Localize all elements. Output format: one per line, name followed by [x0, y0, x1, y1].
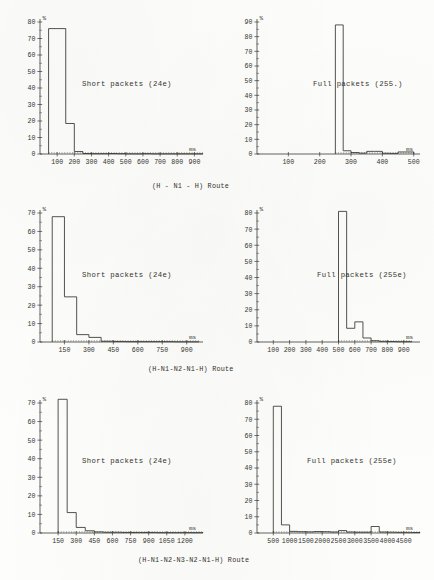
svg-text:%: %	[43, 206, 47, 213]
svg-text:700: 700	[154, 159, 166, 166]
svg-text:70: 70	[28, 210, 36, 217]
svg-text:900: 900	[181, 347, 193, 354]
svg-text:0: 0	[249, 530, 253, 537]
svg-text:60: 60	[245, 433, 253, 440]
chart-panel-full-255-hop1: %ms0102030405060708090100200300400500 Fu…	[217, 0, 434, 195]
svg-text:20: 20	[245, 498, 253, 505]
svg-text:300: 300	[70, 538, 82, 545]
plot-area: %ms0102030405060708010020030040050060070…	[14, 14, 209, 174]
svg-text:20: 20	[245, 307, 253, 314]
svg-text:10: 10	[28, 135, 36, 142]
svg-text:4000: 4000	[379, 538, 395, 545]
svg-text:30: 30	[28, 284, 36, 291]
svg-text:600: 600	[349, 347, 361, 354]
svg-text:%: %	[260, 15, 264, 22]
svg-text:50: 50	[28, 247, 36, 254]
svg-text:ms: ms	[189, 146, 197, 153]
svg-text:40: 40	[245, 93, 253, 100]
svg-text:40: 40	[28, 266, 36, 273]
svg-text:750: 750	[125, 538, 137, 545]
svg-text:70: 70	[245, 49, 253, 56]
series-label: Short packets (24e)	[82, 80, 172, 88]
chart-panel-short-24e-hop3: %ms0102030405060701503004506007509001050…	[0, 385, 217, 580]
svg-text:40: 40	[245, 275, 253, 282]
svg-text:ms: ms	[189, 525, 197, 532]
plot-area: %ms0102030405060708010020030040050060070…	[231, 205, 426, 362]
histogram-svg: %ms0102030405060708050010001500200025003…	[231, 395, 426, 553]
svg-text:20: 20	[28, 303, 36, 310]
svg-text:20: 20	[245, 122, 253, 129]
chart-panel-short-24e-hop1: %ms0102030405060708010020030040050060070…	[0, 0, 217, 195]
svg-text:30: 30	[28, 475, 36, 482]
svg-text:100: 100	[51, 159, 63, 166]
svg-text:%: %	[260, 206, 264, 213]
svg-text:0: 0	[32, 530, 36, 537]
series-label: Full packets (255e)	[317, 271, 407, 279]
svg-text:%: %	[260, 396, 264, 403]
svg-text:40: 40	[28, 456, 36, 463]
figure-row-2: %ms010203040506070150300450600750900 Sho…	[0, 195, 434, 385]
svg-text:0: 0	[32, 151, 36, 158]
svg-text:500: 500	[267, 538, 279, 545]
svg-text:80: 80	[245, 34, 253, 41]
histogram-svg: %ms0102030405060708010020030040050060070…	[14, 14, 209, 174]
svg-text:700: 700	[365, 347, 377, 354]
svg-text:900: 900	[143, 538, 155, 545]
svg-text:%: %	[43, 396, 47, 403]
svg-text:500: 500	[333, 347, 345, 354]
svg-text:200: 200	[68, 159, 80, 166]
svg-text:10: 10	[245, 137, 253, 144]
svg-text:300: 300	[86, 159, 98, 166]
svg-text:50: 50	[245, 259, 253, 266]
svg-text:50: 50	[245, 78, 253, 85]
plot-area: %ms0102030405060708050010001500200025003…	[231, 395, 426, 553]
svg-text:900: 900	[398, 347, 410, 354]
svg-text:300: 300	[300, 347, 312, 354]
svg-text:30: 30	[245, 291, 253, 298]
histogram-svg: %ms0102030405060708010020030040050060070…	[231, 205, 426, 362]
svg-text:10: 10	[28, 512, 36, 519]
svg-text:30: 30	[28, 102, 36, 109]
svg-text:30: 30	[245, 107, 253, 114]
svg-text:0: 0	[32, 339, 36, 346]
svg-text:400: 400	[316, 347, 328, 354]
svg-text:750: 750	[156, 347, 168, 354]
svg-text:10: 10	[245, 323, 253, 330]
svg-text:90: 90	[245, 19, 253, 26]
svg-text:60: 60	[28, 52, 36, 59]
svg-text:20: 20	[28, 493, 36, 500]
svg-text:70: 70	[28, 36, 36, 43]
svg-text:ms: ms	[406, 334, 414, 341]
plot-area: %ms010203040506070150300450600750900	[14, 205, 209, 362]
svg-text:50: 50	[28, 69, 36, 76]
route-caption: (H - N1 - H) Route	[152, 182, 229, 190]
figure-row-3: %ms0102030405060701503004506007509001050…	[0, 385, 434, 580]
svg-text:30: 30	[245, 482, 253, 489]
svg-text:400: 400	[376, 159, 388, 166]
svg-text:600: 600	[132, 347, 144, 354]
svg-text:50: 50	[245, 449, 253, 456]
svg-text:3000: 3000	[347, 538, 363, 545]
svg-text:80: 80	[28, 19, 36, 26]
svg-text:300: 300	[345, 159, 357, 166]
svg-text:60: 60	[28, 419, 36, 426]
svg-text:200: 200	[284, 347, 296, 354]
svg-text:ms: ms	[406, 146, 414, 153]
plot-area: %ms0102030405060708090100200300400500	[231, 14, 426, 174]
chart-panel-full-255e-hop2: %ms0102030405060708010020030040050060070…	[217, 195, 434, 385]
svg-text:450: 450	[107, 347, 119, 354]
svg-text:4500: 4500	[396, 538, 412, 545]
svg-text:ms: ms	[406, 525, 414, 532]
figure-row-1: %ms0102030405060708010020030040050060070…	[0, 0, 434, 195]
svg-text:200: 200	[314, 159, 326, 166]
svg-text:0: 0	[249, 339, 253, 346]
svg-text:150: 150	[52, 538, 64, 545]
svg-text:1500: 1500	[298, 538, 314, 545]
svg-text:100: 100	[282, 159, 294, 166]
svg-text:60: 60	[28, 229, 36, 236]
svg-text:150: 150	[59, 347, 71, 354]
svg-text:%: %	[43, 15, 47, 22]
svg-text:60: 60	[245, 63, 253, 70]
svg-text:800: 800	[381, 347, 393, 354]
figure-sheet: %ms0102030405060708010020030040050060070…	[0, 0, 434, 580]
